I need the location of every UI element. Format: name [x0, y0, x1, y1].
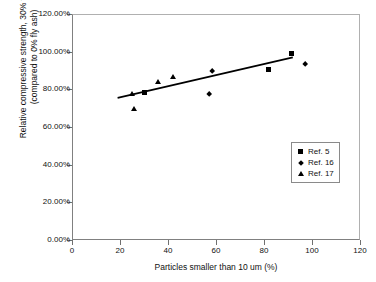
plot-area [72, 14, 360, 240]
x-tick-label: 20 [100, 247, 140, 255]
x-tick [168, 240, 169, 245]
y-axis-title-line2: (compared to 0% fly ash) [29, 0, 40, 182]
y-axis-title-line1: Relative compressive strength, 30% fly a… [18, 0, 29, 182]
x-tick [120, 240, 121, 245]
legend-label: Ref. 5 [308, 147, 329, 156]
x-tick [264, 240, 265, 245]
legend-label: Ref. 16 [308, 158, 334, 167]
x-tick-label: 40 [148, 247, 188, 255]
x-tick [360, 240, 361, 245]
x-tick-label: 100 [292, 247, 332, 255]
x-tick-label: 80 [244, 247, 284, 255]
y-tick-label: 0.00% [10, 236, 70, 244]
x-tick [72, 240, 73, 245]
chart-figure: 0.00%20.00%40.00%60.00%80.00%100.00%120.… [0, 0, 376, 282]
x-tick [312, 240, 313, 245]
x-tick-label: 120 [340, 247, 376, 255]
y-axis-title: Relative compressive strength, 30% fly a… [18, 0, 40, 182]
square-marker-icon [296, 149, 305, 154]
legend-label: Ref. 17 [308, 169, 334, 178]
diamond-marker-icon [296, 161, 305, 165]
legend-item-ref-16: Ref. 16 [296, 157, 334, 168]
legend-item-ref-5: Ref. 5 [296, 146, 334, 157]
x-tick-label: 60 [196, 247, 236, 255]
x-axis-title: Particles smaller than 10 um (%) [72, 262, 360, 272]
x-tick [216, 240, 217, 245]
y-tick-label: 20.00% [10, 198, 70, 206]
legend: Ref. 5 Ref. 16 Ref. 17 [291, 142, 340, 183]
legend-item-ref-17: Ref. 17 [296, 168, 334, 179]
x-tick-label: 0 [52, 247, 92, 255]
triangle-marker-icon [296, 171, 305, 176]
